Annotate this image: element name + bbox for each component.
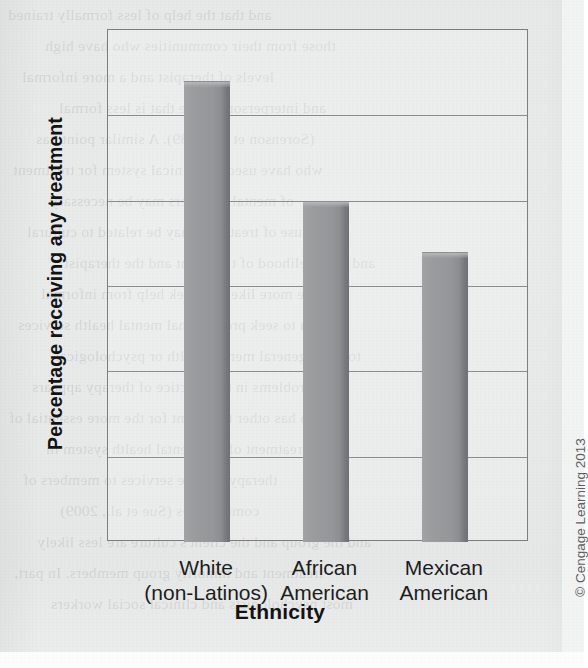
bar — [184, 81, 230, 542]
bar — [303, 201, 349, 542]
plot-area — [107, 29, 528, 541]
y-axis-title: Percentage receiving any treatment — [44, 74, 67, 494]
x-tick-label-line: Mexican — [334, 555, 554, 580]
gridline — [108, 115, 527, 116]
x-tick-label: MexicanAmerican — [334, 555, 554, 605]
copyright-credit: © Cengage Learning 2013 — [573, 418, 588, 618]
bar — [422, 252, 468, 542]
x-axis-title: Ethnicity — [0, 600, 560, 624]
